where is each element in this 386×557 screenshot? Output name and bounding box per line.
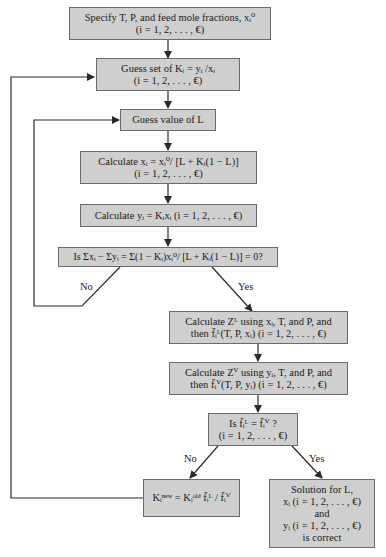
calculate-x-box: Calculate xᵢ = xᵢ⁰/ [L + Kᵢ(1 − L)] (i =…	[80, 151, 257, 184]
yes-label-1: Yes	[238, 281, 253, 292]
calculate-zl-box: Calculate Zᴸ using xᵢ, T, and P, and the…	[169, 311, 348, 344]
fugacity-equality-check-box: Is f̄ᵢᴸ = f̄ᵢⱽ ? (i = 1, 2, . . . , €)	[208, 413, 298, 446]
update-k-box: Kᵢⁿᵉʷ = Kᵢᵒˡᵈ f̄ᵢᴸ / f̄ᵢⱽ	[143, 479, 240, 517]
guess-l-box: Guess value of L	[120, 109, 216, 131]
rachford-rice-check-box: Is Σxᵢ − Σyᵢ = Σ(1 − Kᵢ)xᵢ⁰/ [L + Kᵢ(1 −…	[58, 247, 278, 267]
calculate-y-box: Calculate yᵢ = Kᵢxᵢ (i = 1, 2, . . . , €…	[80, 204, 257, 227]
specify-inputs-box: Specify T, P, and feed mole fractions, x…	[69, 7, 271, 40]
no-label-2: No	[184, 453, 197, 464]
flowchart: Specify T, P, and feed mole fractions, x…	[0, 0, 386, 557]
solution-box: Solution for L, xᵢ (i = 1, 2, . . . , €)…	[269, 479, 375, 548]
yes-label-2: Yes	[309, 453, 324, 464]
calculate-zv-box: Calculate Zⱽ using yᵢ, T, and P, and the…	[169, 362, 348, 395]
guess-k-box: Guess set of Kᵢ = yᵢ /xᵢ (i = 1, 2, . . …	[96, 58, 240, 91]
no-label-1: No	[80, 281, 93, 292]
